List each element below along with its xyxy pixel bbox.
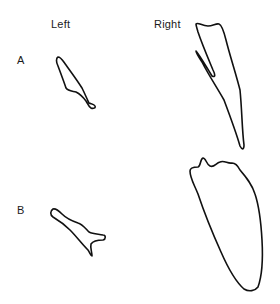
outline-figure — [0, 0, 280, 304]
outline-b-right — [190, 158, 262, 291]
outline-a-left — [57, 57, 96, 108]
outline-b-left — [51, 209, 106, 256]
outline-a-right — [196, 23, 244, 148]
